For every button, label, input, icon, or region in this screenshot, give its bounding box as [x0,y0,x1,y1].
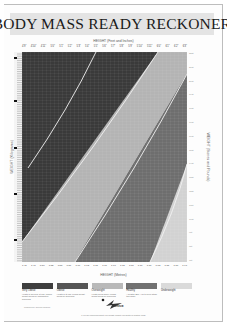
y-axis-ticks-stones: 22st21st20st19st18st17st16st15st14st13st… [189,52,203,262]
legend-label: Underweight [161,290,192,293]
tick-label: 19st [189,93,203,96]
tick-label: 1.80 [147,264,152,267]
title-box: BODY MASS READY RECKONER [10,13,214,35]
tick-label: 5'1" [59,45,63,50]
y-axis-title-left: WEIGHT (Kilograms) [10,140,14,174]
tick-label: 1.78 [138,264,143,267]
tick-label: 16st [189,135,203,138]
page-edge-top [4,4,223,5]
legend-desc: Health is at risk. Losing weight would b… [57,293,88,298]
x-axis-ticks-feet: 4'9"4'10"4'11"5'0"5'1"5'2"5'3"5'4"5'5"5'… [22,45,187,50]
x-axis-ticks-metres: 1.451.481.501.521.551.571.601.631.651.68… [22,264,187,267]
page-edge-bottom [4,321,223,322]
chart-title: BODY MASS READY RECKONER [0,15,227,33]
tick-label: 6'0" [157,45,161,50]
tick-label: 21st [189,66,203,69]
tick-label: 1.45 [22,264,27,267]
tick-label: 1.88 [173,264,178,267]
tick-label: 1.52 [49,264,54,267]
tick-label: 5'5" [94,45,98,50]
tick-label: 10st [189,218,203,221]
tick-label: 1.60 [75,264,80,267]
bmi-chart-plot [22,52,187,262]
tick-label: 1.83 [156,264,161,267]
tick-label: 4'9" [22,45,26,50]
tick-label: 5'9" [128,45,132,50]
tick-label: 5'4" [85,45,89,50]
tick-label: 5'7" [111,45,115,50]
bmi-chart [22,52,187,262]
legend-desc: Health is severely at risk. Losing weigh… [22,293,53,300]
tick-label: 1.75 [129,264,134,267]
tick-label: 12st [189,190,203,193]
tick-label: 9st [189,231,203,234]
tick-label: 1.73 [120,264,125,267]
legend-item-healthy: Healthy A healthy BMI. Aim to keep withi… [126,283,157,300]
legend-item-underweight: Underweight [161,283,192,300]
logo-text: Zeneca [113,304,123,308]
tick-label: 14st [189,162,203,165]
tick-label: 1.63 [84,264,89,267]
tick-label: 1.50 [40,264,45,267]
tick-label: 5'6" [102,45,106,50]
tick-label: 5'8" [120,45,124,50]
tick-label: 1.70 [111,264,116,267]
y-axis-title-right: WEIGHT (Stones and Pounds) [206,132,210,181]
tick-label: 13st [189,176,203,179]
tick-label: 11st [189,204,203,207]
tick-label: 20st [189,80,203,83]
x-axis-title-bottom: HEIGHT (Metres) [0,273,227,277]
tick-label: 6'2" [174,45,178,50]
tick-label: 22st [189,52,203,55]
tick-label: 7st [189,259,203,262]
kg-scale-icon [14,52,22,262]
publisher-text: Produced by Zeneca Pharma [24,306,50,308]
legend-item-obese: Obese Health is at risk. Losing weight w… [57,283,88,300]
tick-label: 1.55 [58,264,63,267]
tick-label: 6'3" [183,45,187,50]
tick-label: 5'10" [137,45,143,50]
tick-label: 4'11" [41,45,47,50]
tick-label: 8st [189,245,203,248]
x-axis-title-top: HEIGHT (Feet and Inches) [0,39,227,43]
tick-label: 5'2" [68,45,72,50]
legend-desc: A healthy BMI. Aim to keep within this r… [126,293,157,298]
tick-label: 1.48 [31,264,36,267]
footer-text: If you are concerned about your weight, … [0,314,227,316]
tick-label: 6'1" [165,45,169,50]
tick-label: 1.85 [165,264,170,267]
tick-label: 1.65 [93,264,98,267]
tick-label: 1.91 [182,264,187,267]
tick-label: 5'11" [147,45,153,50]
tick-label: 1.57 [67,264,72,267]
tick-label: 5'0" [51,45,55,50]
tick-label: 1.68 [102,264,107,267]
tick-label: 17st [189,121,203,124]
tick-label: 15st [189,149,203,152]
tick-label: 5'3" [76,45,80,50]
tick-label: 4'10" [31,45,37,50]
legend-item-very-obese: Very Obese Health is severely at risk. L… [22,283,53,300]
tick-label: 18st [189,107,203,110]
y-axis-ticks-kg [14,52,22,262]
